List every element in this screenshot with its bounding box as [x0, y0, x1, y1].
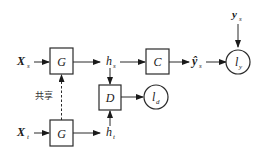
svg-text:X: X — [16, 54, 26, 68]
classifier-block: C — [146, 49, 169, 74]
domain-loss-node: l d — [144, 85, 168, 109]
svg-text:s: s — [113, 62, 116, 70]
domain-adaptation-diagram: X s G h s C ŷ s y s l y D — [0, 0, 266, 155]
svg-text:ŷ: ŷ — [190, 54, 198, 68]
svg-text:d: d — [156, 98, 160, 106]
svg-text:t: t — [27, 133, 30, 141]
source-input-label: X s — [16, 54, 30, 70]
svg-text:s: s — [239, 15, 242, 23]
target-input-label: X t — [16, 125, 30, 141]
prediction-label: ŷ s — [190, 54, 202, 70]
svg-text:X: X — [16, 125, 26, 139]
svg-text:D: D — [105, 91, 115, 105]
svg-text:G: G — [57, 127, 66, 141]
discriminator-block: D — [99, 85, 121, 110]
svg-text:s: s — [27, 62, 30, 70]
ground-truth-label: y s — [230, 8, 242, 23]
svg-text:G: G — [57, 55, 66, 69]
svg-text:t: t — [113, 133, 116, 141]
generator-target-block: G — [50, 120, 73, 146]
classification-loss-node: l y — [226, 50, 250, 74]
svg-text:h: h — [106, 125, 112, 139]
svg-text:h: h — [106, 54, 112, 68]
svg-text:y: y — [230, 8, 237, 20]
generator-source-block: G — [50, 48, 73, 74]
target-feature-label: h t — [106, 125, 116, 141]
svg-text:C: C — [153, 55, 162, 69]
source-feature-label: h s — [106, 54, 116, 70]
shared-label: 共享 — [35, 90, 53, 101]
svg-text:s: s — [199, 62, 202, 70]
